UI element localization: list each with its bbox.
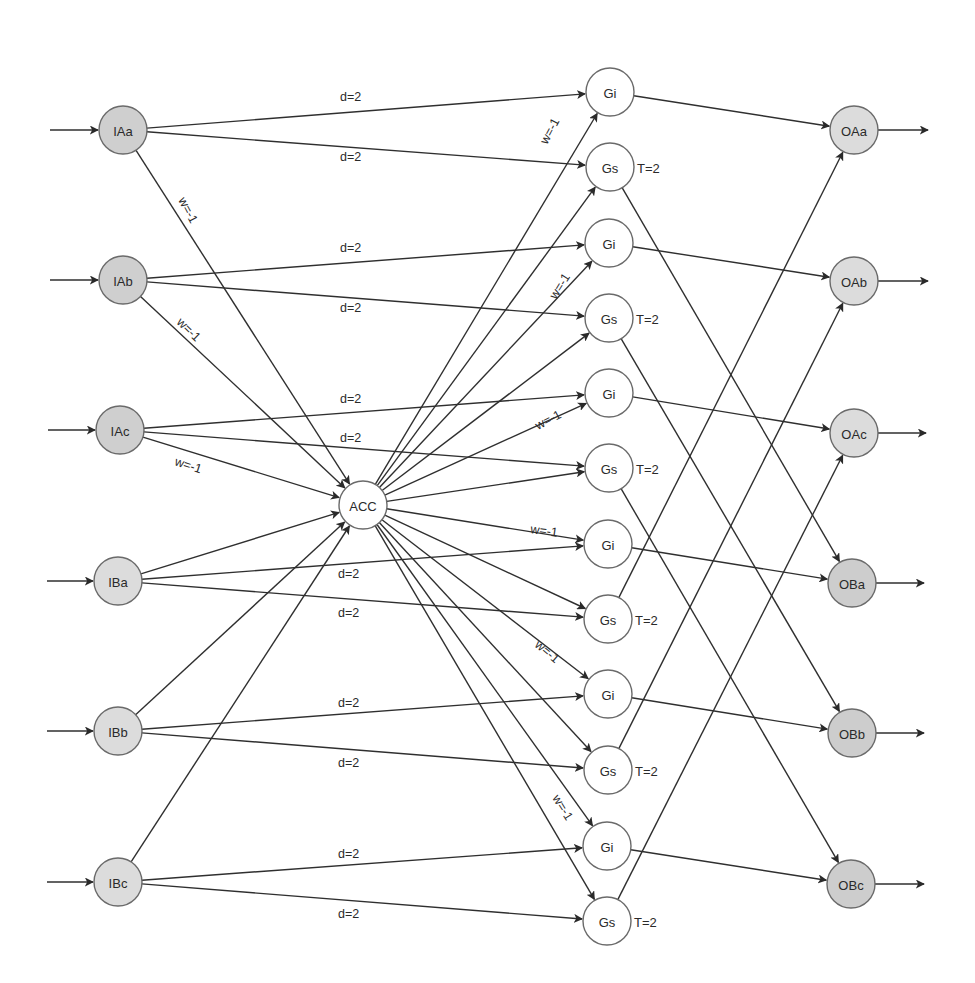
- node-oab: OAb: [830, 257, 878, 305]
- delay-label: d=2: [340, 431, 361, 445]
- node-label: OBb: [839, 727, 865, 742]
- weight-label: w=-1: [532, 407, 564, 433]
- node-label: Gs: [599, 915, 616, 930]
- delay-label: d=2: [340, 90, 361, 104]
- delay-label: d=2: [338, 696, 359, 710]
- weight-label: w=-1: [172, 454, 203, 476]
- node-gs5: GsT=2: [584, 746, 658, 794]
- node-label: IBc: [109, 876, 128, 891]
- node-label: ACC: [349, 499, 376, 514]
- edge-iac-to-gs3: [144, 432, 584, 466]
- threshold-label: T=2: [634, 915, 657, 930]
- delay-label: d=2: [340, 241, 361, 255]
- node-gs1: GsT=2: [586, 143, 660, 191]
- threshold-label: T=2: [636, 312, 659, 327]
- edge-gi5-to-obb: [632, 698, 828, 729]
- node-oac: OAc: [830, 409, 878, 457]
- node-gi6: Gi: [583, 822, 631, 870]
- weight-label: w=-1: [175, 194, 201, 226]
- edge-iba-to-gs4: [142, 583, 583, 617]
- edge-acc-to-gi6: [377, 525, 593, 826]
- edge-iab-to-acc: [141, 296, 345, 488]
- node-gs2: GsT=2: [585, 294, 659, 342]
- node-label: IBa: [108, 575, 128, 590]
- edge-acc-to-gs1: [377, 187, 595, 485]
- edge-iba-to-acc: [141, 512, 339, 574]
- edge-iab-to-gs2: [147, 282, 584, 316]
- node-ibc: IBc: [94, 858, 142, 906]
- node-label: IAb: [113, 274, 133, 289]
- network-diagram-canvas: IAaIAbIAcIBaIBbIBcACCGiGsT=2GiGsT=2GiGsT…: [0, 0, 975, 983]
- edge-acc-to-gs6: [375, 526, 594, 900]
- delay-label: d=2: [340, 392, 361, 406]
- node-label: OAb: [841, 275, 867, 290]
- network-diagram: IAaIAbIAcIBaIBbIBcACCGiGsT=2GiGsT=2GiGsT…: [0, 0, 975, 983]
- node-label: IBb: [108, 725, 128, 740]
- node-label: OBc: [838, 878, 864, 893]
- threshold-label: T=2: [635, 613, 658, 628]
- node-gi5: Gi: [584, 670, 632, 718]
- edge-gi6-to-obc: [631, 850, 827, 881]
- node-label: Gs: [602, 161, 619, 176]
- node-label: IAa: [113, 124, 133, 139]
- delay-label: d=2: [340, 301, 361, 315]
- edge-iaa-to-gs1: [147, 132, 585, 165]
- edge-gs5-to-oab: [619, 303, 843, 748]
- node-label: OAa: [841, 124, 868, 139]
- node-iac: IAc: [96, 406, 144, 454]
- threshold-label: T=2: [636, 462, 659, 477]
- edge-acc-to-gs3: [387, 472, 585, 502]
- edge-iaa-to-gi1: [147, 94, 585, 128]
- node-gs3: GsT=2: [585, 444, 659, 492]
- node-label: Gi: [602, 688, 615, 703]
- weight-label: w=-1: [173, 314, 203, 344]
- node-label: Gs: [600, 613, 617, 628]
- node-label: Gi: [603, 387, 616, 402]
- node-ibb: IBb: [94, 707, 142, 755]
- weight-label: w=-1: [537, 116, 563, 148]
- node-gi3: Gi: [585, 369, 633, 417]
- edge-iab-to-gi2: [147, 245, 584, 278]
- weight-label: w=-1: [531, 637, 562, 666]
- node-obc: OBc: [827, 860, 875, 908]
- node-gi2: Gi: [585, 219, 633, 267]
- edge-gi1-to-oaa: [634, 96, 830, 127]
- node-label: Gs: [601, 312, 618, 327]
- node-gs6: GsT=2: [583, 897, 657, 945]
- node-label: Gi: [602, 538, 615, 553]
- edge-gs6-to-oac: [618, 455, 843, 899]
- node-iab: IAb: [99, 256, 147, 304]
- node-label: Gi: [604, 86, 617, 101]
- weight-label: w=-1: [546, 271, 573, 303]
- edges-layer: [131, 94, 843, 919]
- nodes-layer: IAaIAbIAcIBaIBbIBcACCGiGsT=2GiGsT=2GiGsT…: [94, 68, 878, 945]
- edge-ibc-to-gi6: [142, 848, 582, 880]
- node-gi1: Gi: [586, 68, 634, 116]
- weight-label: w=-1: [529, 522, 559, 540]
- threshold-label: T=2: [635, 764, 658, 779]
- node-gs4: GsT=2: [584, 595, 658, 643]
- node-acc: ACC: [339, 481, 387, 529]
- node-label: Gs: [600, 764, 617, 779]
- edge-acc-to-gs5: [379, 523, 591, 752]
- node-label: Gi: [603, 237, 616, 252]
- edge-ibc-to-gs6: [142, 884, 582, 919]
- node-gi4: Gi: [584, 520, 632, 568]
- node-oba: OBa: [828, 559, 876, 607]
- edge-iba-to-gi4: [142, 546, 583, 579]
- edge-gs3-to-obc: [621, 489, 838, 863]
- node-iaa: IAa: [99, 106, 147, 154]
- edge-gi2-to-oab: [633, 247, 830, 278]
- edge-gi3-to-oac: [633, 397, 830, 429]
- node-oaa: OAa: [830, 106, 878, 154]
- threshold-label: T=2: [637, 161, 660, 176]
- edge-ibb-to-gs5: [142, 733, 583, 768]
- edge-ibc-to-acc: [131, 526, 349, 862]
- delay-label: d=2: [338, 907, 359, 921]
- node-obb: OBb: [828, 709, 876, 757]
- node-label: Gi: [601, 840, 614, 855]
- delay-label: d=2: [340, 150, 361, 164]
- edge-gi4-to-oba: [632, 548, 828, 579]
- edge-iac-to-gi3: [144, 395, 584, 428]
- io-arrows-layer: [47, 130, 928, 884]
